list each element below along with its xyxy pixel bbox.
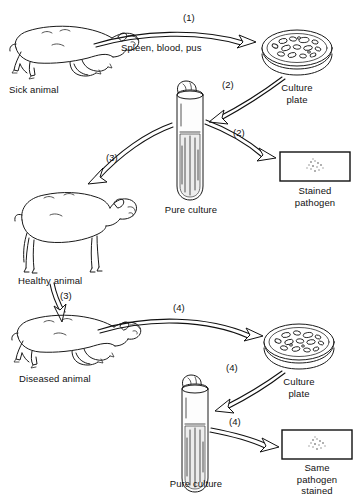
step-label-4c: (4) — [229, 416, 241, 427]
standing-sheep-icon — [15, 193, 137, 273]
arrow-healthy-animal-to-diseased-animal — [50, 283, 66, 322]
step-label-3a: (3) — [106, 152, 118, 163]
label-pure-culture-top: Pure culture — [151, 204, 231, 216]
label-culture-plate-bottom: Culture plate — [264, 376, 334, 399]
arrow-pure-culture-to-healthy-animal — [88, 123, 173, 184]
collapsed-sheep-icon — [12, 315, 141, 368]
petri-dish-icon-bottom — [264, 324, 334, 369]
label-pure-culture-bottom: Pure culture — [156, 478, 236, 490]
label-sick-animal: Sick animal — [9, 84, 59, 96]
label-healthy-animal: Healthy animal — [18, 275, 82, 287]
sick-sheep-icon — [10, 26, 139, 79]
diagram-canvas — [0, 0, 356, 503]
arrow-pure-culture-to-same-pathogen-stained — [210, 428, 279, 452]
label-spleen-blood-pus: Spleen, blood, pus — [121, 42, 202, 54]
label-diseased-animal: Diseased animal — [19, 373, 91, 385]
step-label-4b: (4) — [226, 362, 238, 373]
label-culture-plate-top: Culture plate — [262, 82, 332, 105]
microscope-slide-icon-bottom — [282, 430, 352, 459]
step-label-1: (1) — [183, 12, 195, 23]
koch-postulates-diagram: Sick animal (1) Spleen, blood, pus Cultu… — [0, 0, 356, 503]
step-label-2b: (2) — [233, 127, 245, 138]
petri-dish-icon-top — [262, 30, 332, 75]
label-stained-pathogen: Stained pathogen — [280, 185, 350, 208]
step-label-4a: (4) — [173, 302, 185, 313]
microscope-slide-icon-top — [280, 152, 350, 181]
test-tube-icon-top — [177, 81, 203, 200]
label-same-pathogen-stained: Same pathogen stained — [282, 462, 352, 497]
step-label-3b: (3) — [60, 290, 72, 301]
step-label-2a: (2) — [222, 79, 234, 90]
test-tube-icon-bottom — [182, 375, 208, 492]
